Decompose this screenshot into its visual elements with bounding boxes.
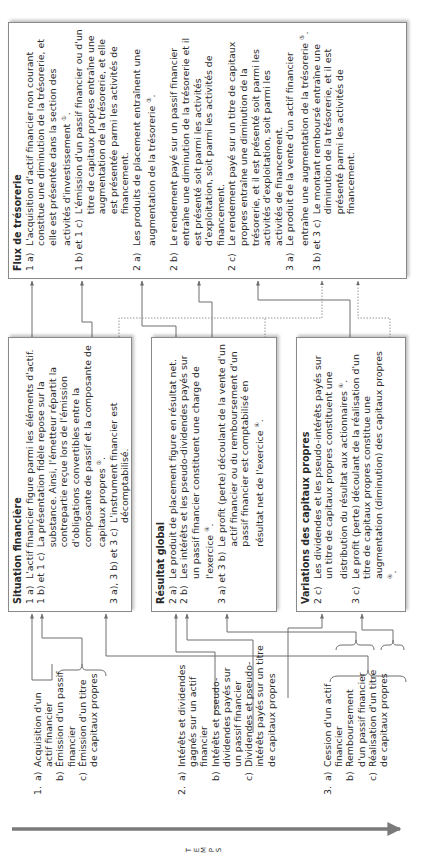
footnote-marker: ② xyxy=(95,460,102,465)
footnote-marker: ① xyxy=(60,115,67,120)
entry-ref: 2 c) xyxy=(312,579,350,604)
entry-text: L'instrument financier est décomptabilis… xyxy=(108,343,131,523)
box-title: Flux de trésorerie xyxy=(12,28,24,271)
temps-letter: S xyxy=(216,845,224,855)
entry-ref: 3 b) et 3 c) xyxy=(311,214,357,271)
entry-ref: 2 a) xyxy=(167,579,179,604)
event-3b: b)Remboursementd'un passif financier xyxy=(344,615,366,795)
entry: 3 c)Le profit (perte) découlant de la ré… xyxy=(350,343,400,604)
event-letter: c) xyxy=(367,767,389,781)
temps-label: T E M P S xyxy=(186,845,224,855)
entry: 3 a)Le produit de la vente d'un actif fi… xyxy=(284,28,310,271)
event-text: Dividendes et pseudo-intérêts payés sur … xyxy=(243,645,277,767)
event-text: Remboursementd'un passif financier xyxy=(344,672,366,767)
event-3c: c)Réalisation d'un titrede capitaux prop… xyxy=(367,615,389,795)
box-title: Situation financière xyxy=(12,343,24,604)
entry-text: Les intérêts et les pseudo-dividendes pa… xyxy=(178,343,216,579)
event-letter: c) xyxy=(243,767,277,781)
entry: 1 a)L'actif financier figure parmi les é… xyxy=(24,343,36,604)
box-title: Résultat global xyxy=(155,343,167,604)
entry-text: Les produits de placement entraînent une… xyxy=(131,28,157,246)
entry-ref: 2 b) xyxy=(168,246,226,271)
entry-ref: 1 b) et 1 c) xyxy=(35,547,108,604)
event-2a: 2.a)Intérêts et dividendesgagnés sur un … xyxy=(176,615,210,795)
entry: 1 b) et 1 c)L'émission d'un passif finan… xyxy=(73,28,131,271)
entry-text: Le montant remboursé entraîne une diminu… xyxy=(311,28,357,214)
entry: 2 b)Les intérêts et les pseudo-dividende… xyxy=(178,343,216,604)
event-letter: c) xyxy=(77,767,99,781)
rotated-page: T E M P S 1.a)Acquisition d'unactif fina… xyxy=(0,0,422,859)
event-1b: b)Émission d'un passiffinancier xyxy=(54,615,76,795)
entry-ref: 3 a), 3 b) et 3 c) xyxy=(108,523,131,604)
event-letter: a) xyxy=(32,767,54,781)
box-flux-tresorerie: Flux de trésorerie 1 a)L'acquisition d'a… xyxy=(8,22,407,279)
event-letter: b) xyxy=(344,767,366,781)
event-3a: 3.a)Cession d'un actiffinancier xyxy=(322,615,344,795)
event-group-3: 3.a)Cession d'un actiffinancier b)Rembou… xyxy=(322,615,389,795)
entry-ref: 1 b) et 1 c) xyxy=(73,214,131,271)
event-number: 1. xyxy=(32,781,54,795)
entry-text: Les dividendes et les pseudo-intérêts pa… xyxy=(312,343,350,579)
entry: 1 a)L'acquisition d'actif financier non … xyxy=(24,28,74,271)
entry: 1 b) et 1 c)La présentation fidèle repos… xyxy=(35,343,108,604)
event-2b: b)Intérêts et pseudo-dividendes payés su… xyxy=(210,615,244,795)
entry: 3 a), 3 b) et 3 c)L'instrument financier… xyxy=(108,343,131,604)
entry-ref: 1 a) xyxy=(24,579,36,604)
entry-ref: 2 c) xyxy=(226,246,284,271)
entry: 3 a) et 3 b)Le profit (perte) découlant … xyxy=(216,343,266,604)
entry-text: Le profit (perte) découlant de la vente … xyxy=(216,343,266,547)
footnote-marker: ④ xyxy=(203,526,210,531)
box-variations-capitaux-propres: Variations des capitaux propres 2 c)Les … xyxy=(296,337,406,612)
entry-ref: 3 c) xyxy=(350,579,400,604)
entry-text: Le produit de la vente d'un actif financ… xyxy=(284,28,310,246)
entry: 2 c)Les dividendes et les pseudo-intérêt… xyxy=(312,343,350,604)
event-text: Acquisition d'unactif financier xyxy=(32,692,54,767)
event-1a: 1.a)Acquisition d'unactif financier xyxy=(32,615,54,795)
entry: 2 c)Le rendement payé sur un titre de ca… xyxy=(226,28,284,271)
event-text: Cession d'un actiffinancier xyxy=(322,684,344,767)
event-number: 3. xyxy=(322,781,344,795)
footnote-marker: ④ xyxy=(386,574,393,579)
entry-text: L'actif financier figure parmi les éléme… xyxy=(24,343,36,579)
entry-text: Le rendement payé sur un passif financie… xyxy=(168,28,226,246)
box-resultat-global: Résultat global 2 a)Le produit de placem… xyxy=(151,337,277,612)
event-number: 2. xyxy=(176,781,210,795)
entry-ref: 3 a) et 3 b) xyxy=(216,547,266,604)
footnote-marker: ③ xyxy=(145,97,152,102)
event-text: Intérêts et pseudo-dividendes payés suru… xyxy=(210,667,244,767)
event-letter: a) xyxy=(322,767,344,781)
event-text: Émission d'un titrede capitaux propres xyxy=(77,673,99,767)
entry: 3 b) et 3 c)Le montant remboursé entraîn… xyxy=(311,28,357,271)
box-situation-financiere: Situation financière 1 a)L'actif financi… xyxy=(8,337,132,612)
entry-text: Le produit de placement figure en résult… xyxy=(167,343,179,579)
entry-text: La présentation fidèle repose sur la sub… xyxy=(35,343,108,547)
entry-text: Le profit (perte) découlant de la réalis… xyxy=(350,343,400,579)
event-group-1: 1.a)Acquisition d'unactif financier b)Ém… xyxy=(32,615,99,795)
entry: 2 a)Le produit de placement figure en ré… xyxy=(167,343,179,604)
footnote-marker: ④ xyxy=(253,422,260,427)
event-letter: b) xyxy=(54,767,76,781)
event-text: Réalisation d'un titrede capitaux propre… xyxy=(367,670,389,767)
box-title: Variations des capitaux propres xyxy=(300,343,312,604)
entry-text: L'émission d'un passif financier ou d'un… xyxy=(73,28,131,214)
event-text: Émission d'un passiffinancier xyxy=(54,672,76,767)
entry: 2 a)Les produits de placement entraînent… xyxy=(131,28,157,271)
event-2c: c)Dividendes et pseudo-intérêts payés su… xyxy=(243,615,277,795)
footnote-marker: ④ xyxy=(337,383,344,388)
footnote-marker: ⑤ xyxy=(298,34,305,39)
event-letter: b) xyxy=(210,767,244,781)
entry-ref: 2 a) xyxy=(131,246,157,271)
event-1c: c)Émission d'un titrede capitaux propres xyxy=(77,615,99,795)
entry-ref: 3 a) xyxy=(284,246,310,271)
event-text: Intérêts et dividendesgagnés sur un acti… xyxy=(176,664,210,767)
event-group-2: 2.a)Intérêts et dividendesgagnés sur un … xyxy=(176,615,277,795)
entry: 2 b)Le rendement payé sur un passif fina… xyxy=(168,28,226,271)
entry-text: Le rendement payé sur un titre de capita… xyxy=(226,28,284,246)
entry-ref: 1 a) xyxy=(24,246,74,271)
event-letter: a) xyxy=(176,767,210,781)
entry-ref: 2 b) xyxy=(178,579,216,604)
entry-text: L'acquisition d'actif financier non cour… xyxy=(24,28,74,246)
